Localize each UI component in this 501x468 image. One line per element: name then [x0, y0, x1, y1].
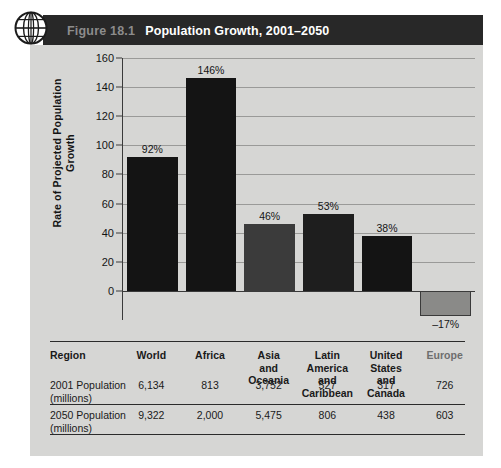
bar-value-label: 38% — [376, 222, 397, 234]
bar-value-label: 53% — [318, 200, 339, 212]
y-axis-tick-label: 40 — [102, 227, 114, 239]
bar — [362, 236, 412, 291]
table-cell: 9,322 — [119, 409, 184, 422]
table-column-header: World — [119, 349, 184, 362]
table-cell: 438 — [354, 409, 419, 422]
table-cell: 813 — [178, 379, 243, 392]
table-cell: 2,000 — [178, 409, 243, 422]
gridline — [123, 116, 475, 117]
table-cell: 3,752 — [236, 379, 301, 392]
table-row-label: 2001 Population (millions) — [50, 379, 126, 404]
bar — [303, 214, 353, 291]
table-corner-header: Region — [50, 349, 86, 362]
y-axis-tick-label: 120 — [96, 110, 114, 122]
figure-container: Figure 18.1Population Growth, 2001–2050 … — [13, 15, 483, 456]
data-table: Region2001 Population (millions)2050 Pop… — [50, 341, 465, 453]
y-axis-tick-label: 0 — [108, 285, 114, 297]
table-rule — [50, 434, 465, 435]
gridline — [123, 145, 475, 146]
y-axis-tick-label: 20 — [102, 256, 114, 268]
bar — [244, 224, 294, 291]
table-column-header: Africa — [178, 349, 243, 362]
y-axis-tick-label: 100 — [96, 139, 114, 151]
bar-value-label: 146% — [198, 64, 225, 76]
bar-chart: Rate of Projected Population Growth 0204… — [30, 45, 483, 340]
table-cell: 726 — [412, 379, 477, 392]
y-axis-tick-label: 60 — [102, 198, 114, 210]
table-cell: 6,134 — [119, 379, 184, 392]
table-cell: 317 — [354, 379, 419, 392]
table-rule — [50, 404, 465, 405]
table-cell: 603 — [412, 409, 477, 422]
table-rule — [50, 341, 465, 342]
table-row-label: 2050 Population (millions) — [50, 409, 126, 434]
table-column-header: Europe — [412, 349, 477, 362]
figure-header-text: Figure 18.1Population Growth, 2001–2050 — [67, 21, 329, 39]
table-cell: 5,475 — [236, 409, 301, 422]
figure-number: Figure 18.1 — [67, 24, 135, 38]
figure-title: Population Growth, 2001–2050 — [145, 24, 329, 38]
y-axis-tick-label: 80 — [102, 168, 114, 180]
gridline — [123, 58, 475, 59]
bar-value-label: 92% — [142, 143, 163, 155]
table-column-header: Latin America and Caribbean — [295, 349, 360, 399]
bar-value-label: –17% — [432, 318, 459, 330]
bar-value-label: 46% — [259, 210, 280, 222]
table-cell: 527 — [295, 379, 360, 392]
bar — [420, 291, 470, 316]
table-column-header: United States and Canada — [354, 349, 419, 399]
table-cell: 806 — [295, 409, 360, 422]
figure-body-panel: Rate of Projected Population Growth 0204… — [30, 45, 483, 456]
y-axis-tick-label: 140 — [96, 81, 114, 93]
gridline — [123, 87, 475, 88]
bar — [186, 78, 236, 291]
y-axis-tick-label: 160 — [96, 52, 114, 64]
y-axis-ticks: 020406080100120140160 — [74, 45, 122, 340]
bar — [127, 157, 177, 291]
globe-icon — [13, 10, 49, 46]
plot-area: 92%146%46%53%38%–17% — [122, 58, 475, 320]
figure-header-banner: Figure 18.1Population Growth, 2001–2050 — [43, 15, 483, 45]
